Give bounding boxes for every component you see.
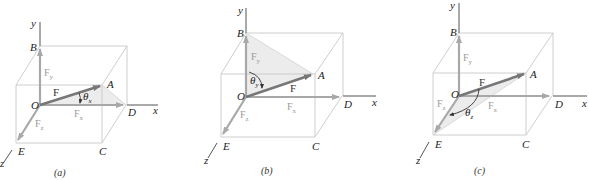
point-a-label: A: [529, 68, 537, 80]
z-axis: [4, 150, 12, 162]
fz-label: Fz: [240, 109, 249, 123]
y-axis-label: y: [449, 0, 455, 11]
y-axis-label: y: [30, 17, 36, 29]
f-label: F: [290, 82, 296, 94]
y-axis-label: y: [237, 4, 243, 16]
panel-c-caption: (c): [474, 165, 486, 177]
panel-a-caption: (a): [54, 167, 66, 179]
f-label: F: [479, 76, 485, 88]
panel-c: y B O A D x E C z F Fy Fx Fz θz (c): [415, 0, 587, 177]
panel-b: y B O A D x E C z F Fy Fx Fz θy (b): [203, 4, 377, 177]
fy-label: Fy: [44, 67, 54, 81]
point-c-label: C: [99, 145, 107, 157]
point-d-label: D: [343, 98, 352, 110]
point-b-label: B: [30, 41, 37, 53]
point-c-label: C: [312, 140, 320, 152]
fz-label: Fz: [35, 118, 44, 132]
point-o-label: O: [237, 90, 245, 102]
panel-a: y B O A D x E C z F Fy Fx Fz θx (a): [0, 17, 158, 179]
point-o-label: O: [31, 99, 39, 111]
point-b-label: B: [237, 27, 244, 39]
f-label: F: [53, 86, 59, 98]
z-axis: [208, 143, 217, 158]
z-axis-label: z: [415, 154, 421, 166]
point-e-label: E: [17, 145, 25, 157]
fz-label: Fz: [437, 98, 446, 112]
point-e-label: E: [434, 138, 442, 150]
point-e-label: E: [222, 140, 230, 152]
point-a-label: A: [317, 69, 325, 81]
force-direction-angles-diagram: y B O A D x E C z F Fy Fx Fz θx (a): [0, 0, 589, 180]
point-c-label: C: [522, 138, 530, 150]
point-b-label: B: [450, 26, 457, 38]
z-axis-label: z: [203, 154, 209, 166]
panel-b-caption: (b): [261, 165, 273, 177]
x-axis-label: x: [152, 104, 158, 116]
fx-label: Fx: [287, 101, 297, 115]
point-o-label: O: [451, 88, 459, 100]
fx-label: Fx: [74, 108, 84, 122]
point-d-label: D: [127, 106, 136, 118]
point-a-label: A: [106, 78, 114, 90]
point-d-label: D: [554, 98, 563, 110]
x-axis-label: x: [581, 97, 587, 109]
z-axis: [420, 142, 429, 158]
fy-label: Fy: [463, 52, 473, 66]
x-axis-label: x: [371, 96, 377, 108]
fx-label: Fx: [488, 100, 498, 114]
z-axis-label: z: [0, 157, 5, 169]
